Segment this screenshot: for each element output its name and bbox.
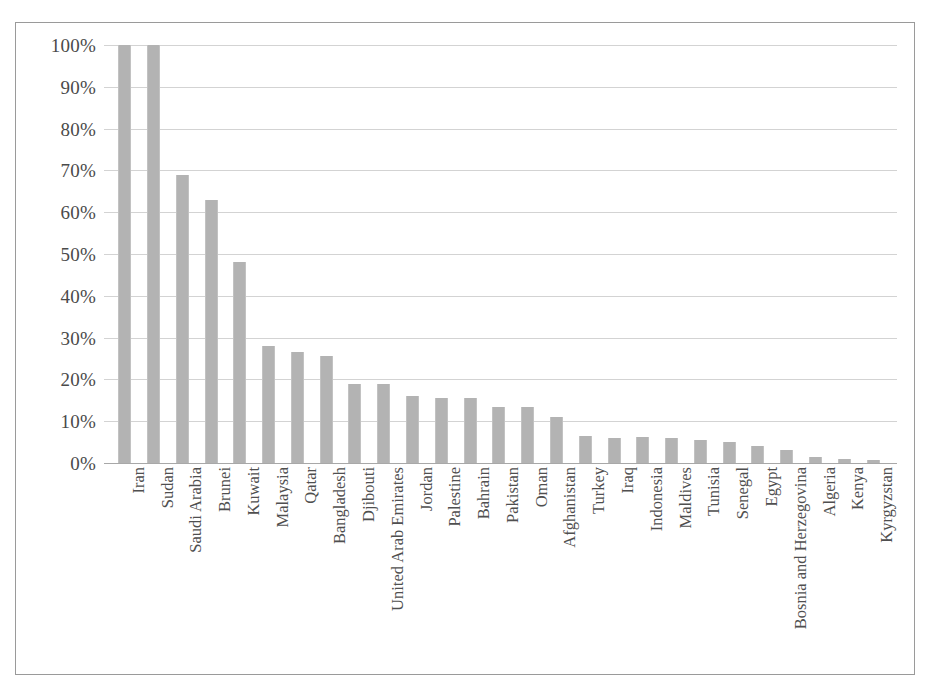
bar [867,460,880,463]
y-axis-tick-label: 90% [16,77,96,96]
y-axis-tick-label: 10% [16,412,96,431]
bar [809,457,822,463]
gridline [104,254,897,255]
x-axis-tick-label: Sudan [160,467,177,667]
bar [147,45,160,463]
y-axis-tick-label: 50% [16,245,96,264]
x-axis-tick-label: Palestine [447,467,464,667]
bar [464,398,477,463]
bar [291,352,304,463]
gridline [104,45,897,46]
bar [550,417,563,463]
gridline [104,129,897,130]
x-axis-line [104,463,897,464]
plot-area [104,45,897,463]
bar [118,45,131,463]
bar [608,438,621,463]
x-axis-tick-label: United Arab Emirates [390,467,407,667]
x-axis-tick-labels: IranSudanSaudi ArabiaBruneiKuwaitMalaysi… [104,467,897,667]
bar [492,407,505,463]
gridline [104,87,897,88]
bar [665,438,678,463]
bar [348,384,361,463]
gridline [104,338,897,339]
gridline [104,296,897,297]
x-axis-tick-label: Pakistan [505,467,522,667]
x-axis-tick-label: Kuwait [246,467,263,667]
y-axis-tick-label: 40% [16,286,96,305]
bar [636,437,649,463]
x-axis-tick-label: Kyrgyzstan [879,467,896,667]
bar [377,384,390,463]
y-axis-tick-label: 60% [16,203,96,222]
bar [435,398,448,463]
x-axis-tick-label: Qatar [303,467,320,667]
y-axis-tick-label: 100% [16,36,96,55]
x-axis-tick-label: Maldives [678,467,695,667]
bar [838,459,851,463]
x-axis-tick-label: Brunei [217,467,234,667]
x-axis-tick-label: Tunisia [706,467,723,667]
gridline [104,212,897,213]
bar [694,440,707,463]
bar [205,200,218,463]
x-axis-tick-label: Algeria [822,467,839,667]
y-axis-tick-labels: 100%90%80%70%60%50%40%30%20%10%0% [16,45,96,463]
bar [723,442,736,463]
bar [320,356,333,463]
y-axis-tick-label: 80% [16,119,96,138]
x-axis-tick-label: Bangladesh [332,467,349,667]
x-axis-tick-label: Bahrain [476,467,493,667]
x-axis-tick-label: Iraq [620,467,637,667]
bar [521,407,534,463]
x-axis-tick-label: Afghanistan [562,467,579,667]
x-axis-tick-label: Bosnia and Herzegovina [793,467,810,667]
bar [406,396,419,463]
bar [262,346,275,463]
x-axis-tick-label: Jordan [419,467,436,667]
x-axis-tick-label: Saudi Arabia [188,467,205,667]
gridline [104,379,897,380]
y-axis-tick-label: 20% [16,370,96,389]
bar [751,446,764,463]
y-axis-tick-label: 0% [16,454,96,473]
bar [176,175,189,463]
x-axis-tick-label: Turkey [591,467,608,667]
gridline [104,170,897,171]
x-axis-tick-label: Egypt [764,467,781,667]
x-axis-tick-label: Oman [534,467,551,667]
bar [780,450,793,463]
y-axis-tick-label: 70% [16,161,96,180]
x-axis-tick-label: Kenya [850,467,867,667]
x-axis-tick-label: Malaysia [275,467,292,667]
x-axis-tick-label: Iran [131,467,148,667]
bar [233,262,246,463]
bar [579,436,592,463]
x-axis-tick-label: Senegal [735,467,752,667]
x-axis-tick-label: Djibouti [361,467,378,667]
y-axis-tick-label: 30% [16,328,96,347]
x-axis-tick-label: Indonesia [649,467,666,667]
chart-figure: 100%90%80%70%60%50%40%30%20%10%0% IranSu… [15,22,915,675]
